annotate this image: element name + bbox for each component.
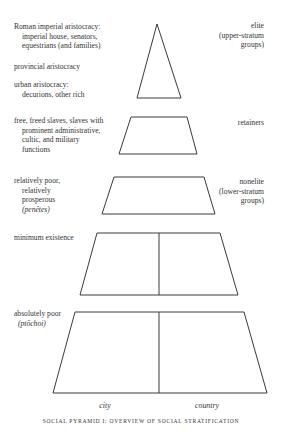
- label-line: relatively: [14, 186, 60, 196]
- absolutely-poor-trapezoid: [53, 312, 267, 393]
- label-line: (penētes): [14, 205, 60, 215]
- label-line: relatively poor,: [14, 176, 60, 186]
- label-line: elite: [219, 21, 264, 31]
- label-line: functions: [14, 145, 103, 155]
- label-line: equestrians (and families): [14, 41, 100, 51]
- label-line: prosperous: [14, 195, 60, 205]
- label-line: retainers: [238, 118, 264, 128]
- label-line: (ptōchoi): [14, 319, 61, 329]
- label-line: imperial house, senators,: [14, 32, 100, 42]
- label-line: provincial aristocracy: [14, 62, 80, 72]
- label-provincial-aristocracy: provincial aristocracy: [14, 62, 80, 72]
- label-retainer-groups: free, freed slaves, slaves with prominen…: [14, 116, 103, 154]
- label-absolutely-poor: absolutely poor (ptōchoi): [14, 309, 61, 328]
- label-line: prominent administrative,: [14, 126, 103, 136]
- figure-caption: SOCIAL PYRAMID I: OVERVIEW OF SOCIAL STR…: [0, 418, 282, 424]
- label-line: minimum existence: [14, 233, 74, 243]
- axis-label-city: city: [99, 401, 110, 410]
- axis-label-country: country: [195, 401, 219, 410]
- elite-triangle: [137, 24, 181, 98]
- label-line: absolutely poor: [14, 309, 61, 319]
- social-pyramid-figure: Roman imperial aristocracy: imperial hou…: [0, 0, 282, 444]
- label-line: groups): [219, 40, 264, 50]
- label-line: cultic, and military: [14, 135, 103, 145]
- label-line: groups): [219, 196, 264, 206]
- label-line: urban aristocracy:: [14, 80, 85, 90]
- label-urban-aristocracy: urban aristocracy: decurions, other rich: [14, 80, 85, 99]
- label-line: (upper-stratum: [219, 31, 264, 41]
- label-nonelite: nonelite (lower-stratum groups): [219, 177, 264, 206]
- label-relatively-poor: relatively poor, relatively prosperous (…: [14, 176, 60, 214]
- relatively-poor-trapezoid: [102, 177, 215, 214]
- retainers-trapezoid: [119, 117, 197, 154]
- label-line: nonelite: [219, 177, 264, 187]
- label-line: (lower-stratum: [219, 187, 264, 197]
- label-roman-imperial-aristocracy: Roman imperial aristocracy: imperial hou…: [14, 22, 100, 51]
- label-minimum-existence: minimum existence: [14, 233, 74, 243]
- label-line: Roman imperial aristocracy:: [14, 22, 100, 32]
- label-line: free, freed slaves, slaves with: [14, 116, 103, 126]
- label-elite: elite (upper-stratum groups): [219, 21, 264, 50]
- label-line: decurions, other rich: [14, 90, 85, 100]
- label-retainers: retainers: [238, 118, 264, 128]
